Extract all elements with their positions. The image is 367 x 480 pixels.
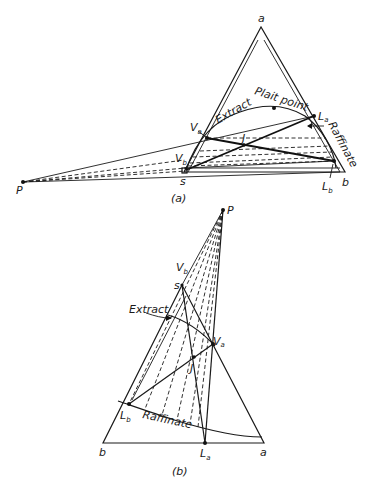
point-P-label-b: P — [227, 204, 234, 217]
extract-label-b: Extract — [129, 303, 169, 316]
dash-p-4 — [177, 210, 223, 420]
arrow-lb — [330, 164, 333, 178]
point-Va-label-a: Va — [190, 121, 202, 136]
caption-b: (b) — [172, 465, 188, 478]
point-J-b — [192, 355, 196, 359]
point-Vb-label-b: Vb — [176, 261, 189, 276]
vertex-a-label-b: a — [260, 446, 267, 459]
extract-label-a: Extract — [213, 95, 254, 126]
line-vb-lb — [186, 161, 334, 168]
dash-p-5 — [190, 210, 223, 424]
point-J-label-b: J — [188, 362, 193, 375]
plait-point-label: Plait point — [253, 84, 310, 114]
point-Va-label-b: Va — [213, 335, 225, 349]
point-Lb-b — [127, 402, 131, 406]
dash-p-3 — [162, 210, 223, 415]
point-J-label-a: J — [240, 132, 245, 145]
point-P-b — [221, 208, 225, 212]
arrow-raffinate-head — [307, 123, 312, 129]
panel-a: a b s P La Lb Va Vb J Extract Plait poin… — [16, 12, 360, 205]
vertex-s-label-b: s — [174, 279, 180, 292]
line-p-la-b — [205, 210, 223, 443]
vertex-b-label-a: b — [342, 176, 349, 189]
vertex-b-label-b: b — [99, 446, 106, 459]
line-lb-va-b — [129, 344, 213, 404]
vertex-a-label-a: a — [258, 12, 265, 25]
line-va-lb — [207, 138, 334, 161]
point-Lb-label-b: Lb — [120, 409, 131, 424]
caption-a: (a) — [171, 192, 186, 205]
vertex-s-label-a: s — [180, 175, 186, 188]
dash-line-p-2 — [23, 168, 186, 182]
point-P-label-a: P — [16, 184, 23, 197]
point-La-label-b: La — [200, 447, 210, 462]
point-La-label-a: La — [318, 110, 328, 124]
point-plait — [272, 106, 276, 110]
panel-b: P Vb s Extract Va J Lb Raffinate b La a … — [99, 204, 267, 478]
point-La-b — [203, 441, 207, 445]
point-La-a — [312, 114, 316, 118]
point-s-b — [180, 283, 183, 286]
point-Lb-a — [332, 159, 336, 163]
point-Lb-label-a: Lb — [322, 180, 333, 195]
raffinate-label-a: Raffinate — [325, 119, 360, 170]
ternary-extraction-diagram: a b s P La Lb Va Vb J Extract Plait poin… — [0, 0, 367, 480]
raffinate-label-b: Raffinate — [141, 408, 193, 431]
point-Vb-label-a: Vb — [175, 152, 188, 167]
line-p-s-b — [182, 210, 223, 285]
